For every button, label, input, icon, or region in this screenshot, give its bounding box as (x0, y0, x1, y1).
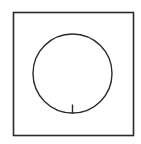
diagram-canvas (0, 0, 141, 144)
circle-dial (33, 34, 112, 113)
square-frame (14, 13, 134, 136)
